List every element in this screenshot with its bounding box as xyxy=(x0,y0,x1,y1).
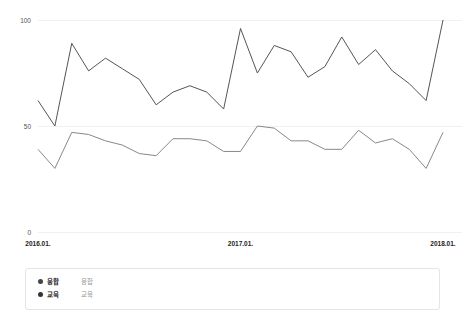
legend-item-value: 융합 xyxy=(81,275,93,288)
data-series-group xyxy=(38,20,443,168)
x-axis-tick-label: 2017.01. xyxy=(228,240,253,247)
x-axis-tick-labels: 2016.01.2017.01.2018.01. xyxy=(25,240,455,247)
legend-item-label: 교육 xyxy=(47,288,73,301)
y-axis-tick-label: 0 xyxy=(27,229,31,236)
legend-item[interactable]: 교육 교육 xyxy=(38,288,439,301)
line-chart: 050100 2016.01.2017.01.2018.01. 융합 융합 교육… xyxy=(0,0,465,333)
series-line-융합 xyxy=(38,20,443,126)
x-axis-tick-label: 2016.01. xyxy=(25,240,50,247)
legend-item-label: 융합 xyxy=(47,275,73,288)
chart-plot-area: 050100 2016.01.2017.01.2018.01. xyxy=(0,0,465,258)
legend-item-value: 교육 xyxy=(81,288,93,301)
series-line-교육 xyxy=(38,126,443,168)
legend-item[interactable]: 융합 융합 xyxy=(38,275,439,288)
legend-bullet-icon xyxy=(38,279,43,284)
y-axis-tick-label: 100 xyxy=(20,17,31,24)
y-axis-tick-label: 50 xyxy=(24,123,32,130)
chart-legend: 융합 융합 교육 교육 xyxy=(25,268,440,310)
gridlines xyxy=(38,20,462,232)
chart-svg: 050100 2016.01.2017.01.2018.01. xyxy=(0,0,465,258)
x-axis-tick-label: 2018.01. xyxy=(430,240,455,247)
legend-bullet-icon xyxy=(38,292,43,297)
y-axis-tick-labels: 050100 xyxy=(20,17,31,236)
